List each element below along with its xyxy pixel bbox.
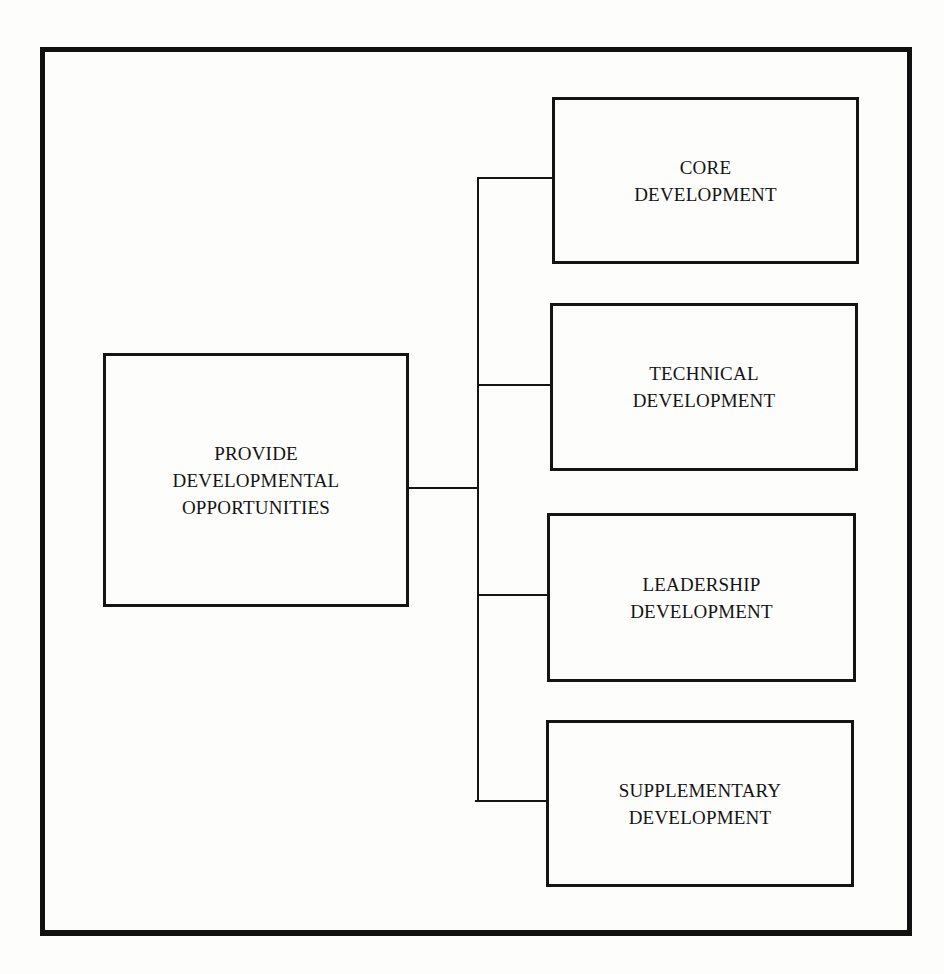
child-box-supplementary-development: SUPPLEMENTARY DEVELOPMENT <box>546 720 854 887</box>
connector-branch-technical <box>477 384 551 386</box>
child-box-technical-development: TECHNICAL DEVELOPMENT <box>550 303 858 471</box>
connector-trunk <box>477 177 479 802</box>
child-box-label-technical: TECHNICAL DEVELOPMENT <box>633 360 776 414</box>
connector-branch-leadership <box>477 594 548 596</box>
root-box-label: PROVIDE DEVELOPMENTAL OPPORTUNITIES <box>173 440 340 521</box>
child-box-leadership-development: LEADERSHIP DEVELOPMENT <box>547 513 856 682</box>
child-box-label-core: CORE DEVELOPMENT <box>634 154 777 208</box>
child-box-core-development: CORE DEVELOPMENT <box>552 97 859 264</box>
child-box-label-supplementary: SUPPLEMENTARY DEVELOPMENT <box>619 777 782 831</box>
connector-branch-supplementary <box>475 800 547 802</box>
connector-branch-core <box>477 177 553 179</box>
connector-root-to-trunk <box>408 487 479 489</box>
child-box-label-leadership: LEADERSHIP DEVELOPMENT <box>630 571 773 625</box>
root-box-provide-developmental-opportunities: PROVIDE DEVELOPMENTAL OPPORTUNITIES <box>103 353 409 607</box>
